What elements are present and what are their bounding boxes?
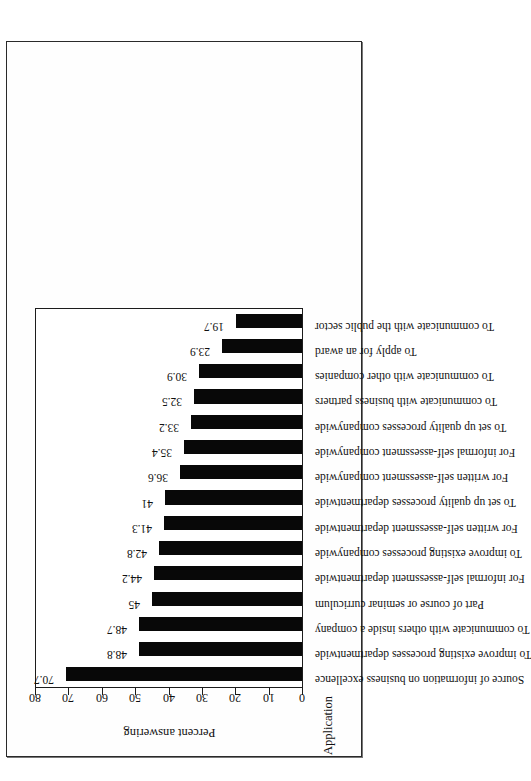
bar-value-label: 23.9 <box>190 346 210 358</box>
bar <box>139 642 302 656</box>
bar-slot: 33.2 <box>35 415 302 429</box>
bar-value-label: 30.9 <box>167 371 187 383</box>
category-axis-labels: Source of information on business excell… <box>307 308 357 687</box>
bar-slot: 44.2 <box>35 566 302 580</box>
rotated-figure-stage: Percent answering 01020304050607080 70.7… <box>7 42 361 744</box>
category-label: To communicate with the public sector <box>315 321 494 333</box>
bar-value-label: 42.8 <box>127 548 147 560</box>
x-axis-title: Application <box>307 690 357 744</box>
bar-slot: 19.7 <box>35 314 302 328</box>
y-tick-label: 30 <box>202 690 214 705</box>
bar <box>165 490 302 504</box>
bar-value-label: 45 <box>128 599 140 611</box>
bar-value-label: 35.4 <box>152 447 172 459</box>
y-tick-label-text: 50 <box>129 690 141 705</box>
bar-slot: 70.7 <box>35 667 302 681</box>
category-label: To improve existing processes department… <box>315 649 531 661</box>
y-axis-title-text: Percent answering <box>123 724 215 739</box>
bar <box>222 339 302 353</box>
y-tick-label-text: 30 <box>196 690 208 705</box>
bar <box>191 415 302 429</box>
bar-value-label: 19.7 <box>204 321 224 333</box>
bar-slot: 32.5 <box>35 389 302 403</box>
bar-slot: 23.9 <box>35 339 302 353</box>
bar-value-label: 33.2 <box>159 422 179 434</box>
y-tick-label-text: 80 <box>29 690 41 705</box>
category-label: Source of information on business excell… <box>315 674 524 686</box>
bar <box>66 667 302 681</box>
figure-outer-frame: Percent answering 01020304050607080 70.7… <box>6 41 362 757</box>
y-tick-label: 50 <box>135 690 147 705</box>
bar-value-label: 48.7 <box>107 624 127 636</box>
category-label: To apply for an award <box>315 346 416 358</box>
bar <box>154 566 302 580</box>
bar-slot: 30.9 <box>35 364 302 378</box>
bar <box>199 364 302 378</box>
y-tick-label-text: 60 <box>96 690 108 705</box>
bar-value-label: 36.6 <box>148 472 168 484</box>
bar-value-label: 44.2 <box>122 573 142 585</box>
category-label: To set up quality processes companywide <box>315 422 506 434</box>
category-label: To communicate with others inside a comp… <box>315 624 529 636</box>
bar-slot: 42.8 <box>35 541 302 555</box>
bar <box>184 440 302 454</box>
bar <box>194 389 302 403</box>
bar-slot: 41.3 <box>35 516 302 530</box>
y-tick-label: 70 <box>68 690 80 705</box>
bar-slot: 41 <box>35 490 302 504</box>
y-tick-label: 40 <box>169 690 181 705</box>
category-label: For written self-assessment companywide <box>315 472 508 484</box>
bar <box>180 465 302 479</box>
y-tick-label: 80 <box>35 690 47 705</box>
y-tick-label-text: 40 <box>163 690 175 705</box>
y-axis-title: Percent answering <box>35 724 303 740</box>
bar-value-label: 41.3 <box>132 523 152 535</box>
bar <box>152 592 302 606</box>
category-label: To set up quality processes departmentwi… <box>315 498 516 510</box>
bar-slot: 48.7 <box>35 617 302 631</box>
y-tick-label: 60 <box>102 690 114 705</box>
bar-slot: 48.8 <box>35 642 302 656</box>
bar <box>164 516 302 530</box>
bar <box>236 314 302 328</box>
bar-series: 70.748.848.74544.242.841.34136.635.433.2… <box>35 308 302 687</box>
bar-slot: 45 <box>35 592 302 606</box>
bar-value-label: 41 <box>142 498 154 510</box>
category-label: To communicate with business partners <box>315 396 497 408</box>
x-axis-title-text: Application <box>321 696 336 755</box>
y-tick-label-text: 0 <box>299 690 305 705</box>
category-label: For informal self-assessment companywide <box>315 447 515 459</box>
bar-value-label: 70.7 <box>34 674 54 686</box>
y-tick-label-text: 10 <box>263 690 275 705</box>
bar-value-label: 48.8 <box>107 649 127 661</box>
category-label: To communicate with other companies <box>315 371 494 383</box>
bar-slot: 36.6 <box>35 465 302 479</box>
category-label: For written self-assessment departmentwi… <box>315 523 518 535</box>
y-tick-label-text: 70 <box>62 690 74 705</box>
y-axis: 01020304050607080 <box>35 687 303 688</box>
bar-value-label: 32.5 <box>161 396 181 408</box>
bar <box>159 541 302 555</box>
bar-slot: 35.4 <box>35 440 302 454</box>
bar <box>139 617 302 631</box>
category-label: Part of course or seminar curriculum <box>315 599 484 611</box>
y-tick-label-text: 20 <box>229 690 241 705</box>
y-tick-label: 10 <box>269 690 281 705</box>
category-label: For informal self-assessment departmentw… <box>315 573 525 585</box>
category-label: To improve existing processes companywid… <box>315 548 522 560</box>
y-tick-label: 20 <box>235 690 247 705</box>
